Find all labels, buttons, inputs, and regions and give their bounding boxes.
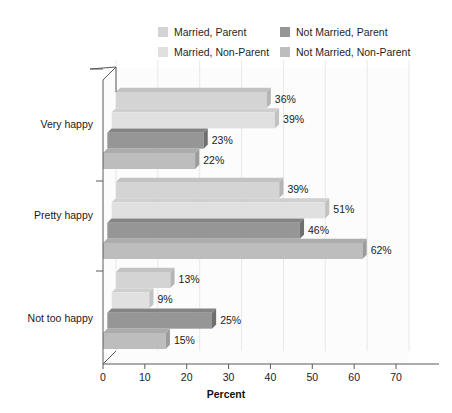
y-axis-category-label: Very happy — [40, 118, 93, 130]
bar-value-label: 25% — [220, 314, 241, 326]
bar-value-label: 36% — [275, 93, 296, 105]
bar-value-label: 39% — [283, 113, 304, 125]
y-axis-category-label: Pretty happy — [34, 209, 93, 221]
x-axis-tick-label: 70 — [381, 371, 411, 383]
bar-value-label: 51% — [333, 203, 354, 215]
x-axis-tick-label: 10 — [130, 371, 160, 383]
x-axis-tick-label: 40 — [255, 371, 285, 383]
x-axis-tick-label: 20 — [172, 371, 202, 383]
x-axis-title: Percent — [0, 388, 452, 400]
bar-value-label: 9% — [157, 293, 172, 305]
bar-value-label: 39% — [287, 183, 308, 195]
bar-value-label: 62% — [371, 244, 392, 256]
plot-area — [0, 0, 452, 413]
bar-value-label: 23% — [212, 134, 233, 146]
x-axis-tick-label: 30 — [214, 371, 244, 383]
x-axis-tick-label: 50 — [297, 371, 327, 383]
bar-value-label: 15% — [174, 334, 195, 346]
x-axis-tick-label: 60 — [339, 371, 369, 383]
y-axis-category-label: Not too happy — [28, 312, 93, 324]
x-axis-tick-label: 0 — [88, 371, 118, 383]
bar-value-label: 46% — [308, 224, 329, 236]
bar-value-label: 13% — [179, 273, 200, 285]
bar-chart: Married, Parent Not Married, Parent Marr… — [0, 0, 452, 413]
bar-value-label: 22% — [203, 154, 224, 166]
